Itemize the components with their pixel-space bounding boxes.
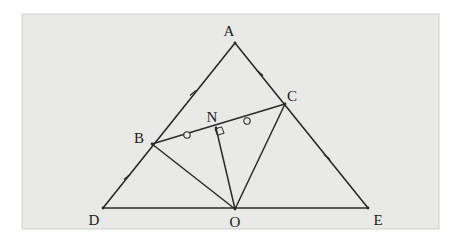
vertex-label-d: D [89, 212, 100, 228]
vertex-label-a: A [224, 23, 235, 39]
vertex-point-n [215, 127, 218, 130]
vertex-point-c [284, 103, 287, 106]
vertex-point-a [234, 42, 237, 45]
geometry-canvas: ABCNDOE [0, 0, 465, 241]
vertex-point-e [367, 207, 370, 210]
vertex-point-d [102, 207, 105, 210]
vertex-label-b: B [134, 130, 144, 146]
vertex-label-o: O [230, 214, 241, 230]
vertex-point-b [151, 143, 154, 146]
vertex-label-n: N [207, 109, 218, 125]
geometry-figure: ABCNDOE [0, 0, 465, 241]
vertex-point-o [234, 208, 237, 211]
figure-panel [22, 14, 439, 229]
mark-BN [184, 132, 190, 138]
vertex-label-c: C [287, 88, 297, 104]
mark-NC [244, 118, 250, 124]
vertex-label-e: E [373, 212, 382, 228]
